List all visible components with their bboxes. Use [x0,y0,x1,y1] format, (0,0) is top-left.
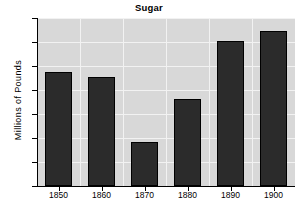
bar-1890 [217,41,244,186]
bar-1870 [131,142,158,186]
gridline-vertical [209,18,210,186]
x-tick-label-1890: 1890 [209,191,253,200]
y-tick-mark [32,90,37,91]
x-tick-label-1880: 1880 [166,191,210,200]
x-tick-label-1870: 1870 [123,191,167,200]
gridline-vertical [123,18,124,186]
y-axis-title: Millions of Pounds [13,25,23,175]
x-tick-mark [59,186,60,191]
y-tick-mark [32,66,37,67]
y-tick-mark [32,114,37,115]
bar-1860 [88,77,115,186]
x-tick-mark [231,186,232,191]
y-tick-mark [32,186,37,187]
bar-1880 [174,99,201,186]
x-tick-label-1900: 1900 [252,191,296,200]
bar-1900 [260,31,287,186]
plot-area [37,18,295,186]
x-axis-line [37,186,295,187]
x-tick-label-1850: 1850 [37,191,81,200]
chart-title: Sugar [0,2,298,13]
bar-1850 [45,72,72,186]
y-tick-mark [32,162,37,163]
x-tick-mark [274,186,275,191]
gridline-vertical [252,18,253,186]
x-tick-mark [102,186,103,191]
y-tick-mark [32,18,37,19]
gridline-vertical [80,18,81,186]
x-tick-mark [145,186,146,191]
x-tick-label-1860: 1860 [80,191,124,200]
y-tick-mark [32,42,37,43]
bar-chart: Sugar Millions of Pounds 050100150200250… [0,0,298,214]
x-tick-mark [188,186,189,191]
gridline-vertical [166,18,167,186]
y-axis-line [37,18,38,186]
y-tick-mark [32,138,37,139]
